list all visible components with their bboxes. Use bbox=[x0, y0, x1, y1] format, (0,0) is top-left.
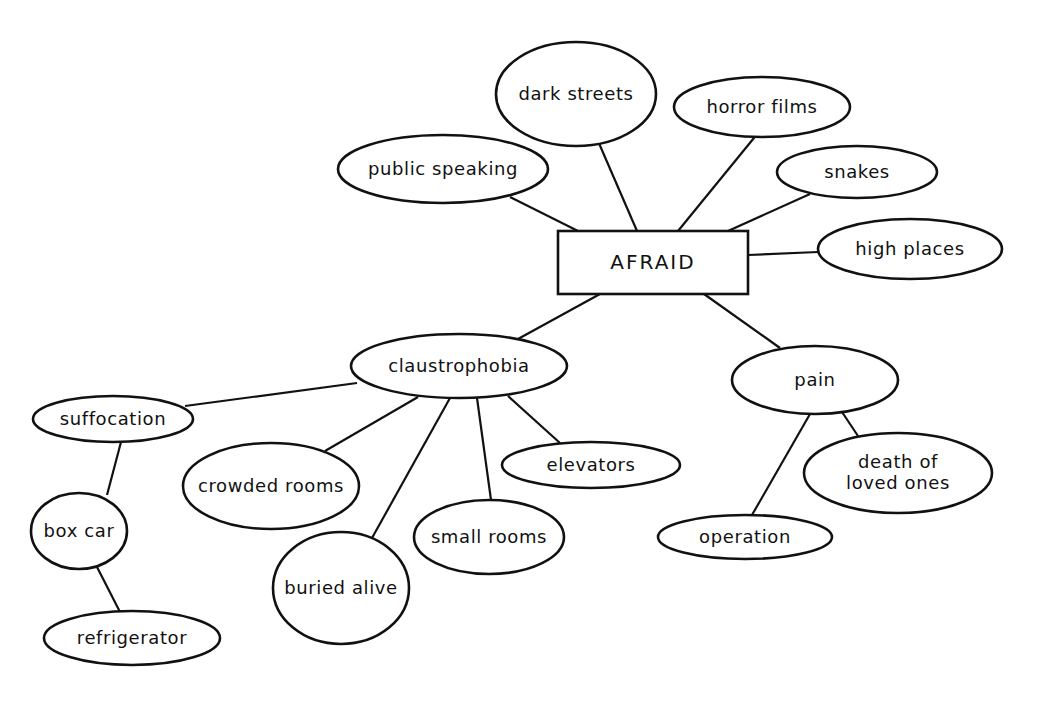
node-label: refrigerator bbox=[77, 627, 187, 648]
node-label-line2: loved ones bbox=[846, 472, 950, 493]
edge-afraid-snakes bbox=[728, 194, 810, 231]
node-snakes: snakes bbox=[777, 146, 937, 198]
edge-afraid-dark-streets bbox=[598, 141, 637, 231]
edge-afraid-public-speaking bbox=[510, 197, 578, 231]
edge-afraid-claustrophobia bbox=[518, 294, 600, 339]
node-elevators: elevators bbox=[502, 442, 680, 488]
node-label: snakes bbox=[824, 161, 890, 182]
node-label: pain bbox=[794, 369, 835, 390]
node-pain: pain bbox=[732, 346, 898, 414]
node-buried-alive: buried alive bbox=[273, 532, 409, 644]
node-suffocation: suffocation bbox=[33, 396, 193, 442]
node-label: claustrophobia bbox=[388, 355, 530, 376]
edge-pain-death-of-loved-ones bbox=[842, 412, 858, 436]
root-node-afraid: AFRAID bbox=[558, 231, 748, 294]
root-label: AFRAID bbox=[610, 250, 695, 274]
edge-suffocation-box-car bbox=[107, 442, 121, 495]
nodes-layer: AFRAID dark streetshorror filmspublic sp… bbox=[31, 42, 1002, 665]
node-public-speaking: public speaking bbox=[338, 135, 548, 203]
node-label: public speaking bbox=[368, 158, 518, 179]
edge-afraid-horror-films bbox=[678, 133, 758, 231]
node-label: elevators bbox=[546, 454, 635, 475]
node-label: high places bbox=[855, 238, 964, 259]
node-label: crowded rooms bbox=[198, 475, 344, 496]
node-label: horror films bbox=[706, 96, 817, 117]
node-label: box car bbox=[44, 520, 115, 541]
edge-claustrophobia-small-rooms bbox=[477, 398, 491, 500]
node-label: dark streets bbox=[518, 83, 633, 104]
node-label: buried alive bbox=[284, 577, 397, 598]
edge-afraid-pain bbox=[704, 294, 780, 348]
node-high-places: high places bbox=[818, 219, 1002, 279]
edge-claustrophobia-suffocation bbox=[185, 383, 357, 406]
edge-claustrophobia-elevators bbox=[508, 396, 560, 443]
node-refrigerator: refrigerator bbox=[44, 611, 220, 665]
node-box-car: box car bbox=[31, 493, 127, 569]
node-horror-films: horror films bbox=[674, 77, 850, 137]
edge-afraid-high-places bbox=[748, 252, 818, 255]
edge-claustrophobia-crowded-rooms bbox=[325, 397, 418, 451]
node-small-rooms: small rooms bbox=[414, 500, 564, 574]
concept-map: AFRAID dark streetshorror filmspublic sp… bbox=[0, 0, 1037, 701]
node-claustrophobia: claustrophobia bbox=[351, 334, 567, 398]
node-death-of-loved-ones: death ofloved ones bbox=[804, 433, 992, 513]
node-label: small rooms bbox=[431, 526, 547, 547]
node-crowded-rooms: crowded rooms bbox=[183, 443, 359, 529]
node-label: operation bbox=[699, 526, 791, 547]
node-dark-streets: dark streets bbox=[496, 42, 656, 146]
node-operation: operation bbox=[658, 515, 832, 559]
node-label: death of bbox=[858, 451, 938, 472]
node-label: suffocation bbox=[60, 408, 166, 429]
edge-pain-operation bbox=[752, 414, 810, 515]
edge-box-car-refrigerator bbox=[97, 567, 120, 612]
